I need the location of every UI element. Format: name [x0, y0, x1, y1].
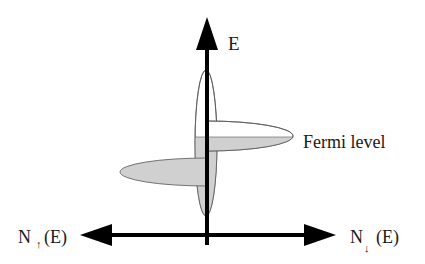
spin-down-arrow-icon: ↓ — [364, 242, 370, 254]
left-axis-label-suffix: (E) — [44, 227, 67, 248]
dos-diagram: E Fermi level N ↑ (E) N ↓ (E) — [0, 0, 425, 264]
right-axis-label-prefix: N — [350, 227, 363, 247]
fermi-level-label: Fermi level — [303, 132, 385, 152]
spin-up-arrow-icon: ↑ — [36, 238, 42, 250]
left-arrowhead-icon — [80, 224, 112, 246]
up-arrowhead-icon — [196, 17, 218, 50]
right-axis-label-suffix: (E) — [376, 227, 399, 248]
right-axis-label: N ↓ (E) — [350, 227, 399, 254]
right-arrowhead-icon — [304, 224, 336, 246]
dos-diagram-svg: E Fermi level N ↑ (E) N ↓ (E) — [0, 0, 425, 264]
left-axis-label: N ↑ (E) — [18, 227, 67, 250]
energy-axis-label: E — [228, 33, 240, 54]
left-axis-label-prefix: N — [18, 227, 31, 247]
